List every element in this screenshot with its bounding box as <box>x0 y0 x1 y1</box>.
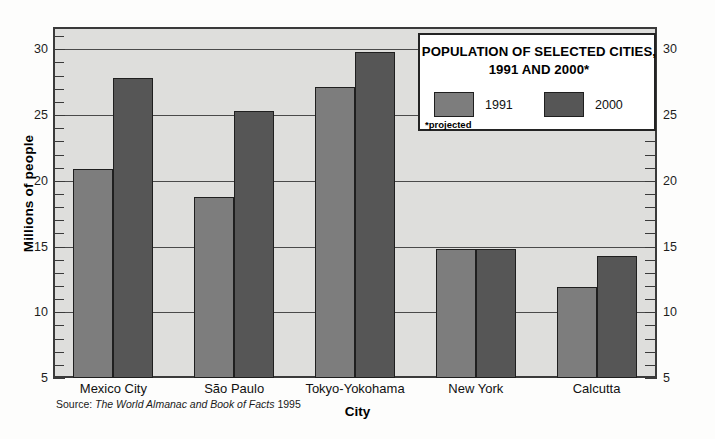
minor-tick-right <box>645 220 656 221</box>
minor-tick-right <box>645 365 656 366</box>
minor-tick-right <box>645 273 656 274</box>
bar-2000-são-paulo <box>234 111 274 378</box>
y-tick-label-right-25: 25 <box>663 109 677 122</box>
source-year: 1995 <box>277 398 300 410</box>
legend-box: POPULATION OF SELECTED CITIES, 1991 AND … <box>418 33 656 131</box>
bar-1991-mexico-city <box>73 169 113 378</box>
minor-tick-left <box>53 339 64 340</box>
bar-2000-tokyo-yokohama <box>355 52 395 378</box>
major-tick-left <box>53 378 65 379</box>
category-label-calcutta: Calcutta <box>517 381 677 396</box>
minor-tick-right <box>645 155 656 156</box>
major-tick-right <box>645 181 657 182</box>
minor-tick-left <box>53 168 64 169</box>
major-tick-left <box>53 181 65 182</box>
minor-tick-left <box>53 141 64 142</box>
y-tick-label-right-20: 20 <box>663 175 677 188</box>
minor-tick-right <box>645 286 656 287</box>
bar-2000-new-york <box>476 249 516 378</box>
y-tick-label-right-30: 30 <box>663 43 677 56</box>
minor-tick-left <box>53 207 64 208</box>
minor-tick-right <box>645 141 656 142</box>
legend-swatch-2000 <box>544 92 584 117</box>
minor-tick-left <box>53 76 64 77</box>
legend-entry-2000: 2000 <box>544 92 623 117</box>
minor-tick-left <box>53 62 64 63</box>
major-tick-right <box>645 247 657 248</box>
minor-tick-left <box>53 36 64 37</box>
minor-tick-right <box>645 194 656 195</box>
minor-tick-left <box>53 155 64 156</box>
minor-tick-left <box>53 260 64 261</box>
y-tick-label-left-20: 20 <box>34 175 48 188</box>
y-tick-label-left-25: 25 <box>34 109 48 122</box>
minor-tick-left <box>53 325 64 326</box>
minor-tick-right <box>645 352 656 353</box>
minor-tick-right <box>645 299 656 300</box>
major-tick-left <box>53 247 65 248</box>
minor-tick-right <box>645 339 656 340</box>
major-tick-right <box>645 312 657 313</box>
legend-title: POPULATION OF SELECTED CITIES, 1991 AND … <box>420 43 658 79</box>
minor-tick-right <box>645 168 656 169</box>
minor-tick-left <box>53 233 64 234</box>
minor-tick-right <box>645 260 656 261</box>
legend-entry-1991: 1991 <box>434 92 513 117</box>
legend-label-2000: 2000 <box>595 98 623 112</box>
minor-tick-left <box>53 102 64 103</box>
bar-1991-tokyo-yokohama <box>315 87 355 378</box>
y-tick-label-right-10: 10 <box>663 306 677 319</box>
bar-2000-mexico-city <box>113 78 153 378</box>
y-tick-label-left-30: 30 <box>34 43 48 56</box>
minor-tick-right <box>645 325 656 326</box>
y-tick-label-left-15: 15 <box>34 241 48 254</box>
minor-tick-right <box>645 207 656 208</box>
legend-label-1991: 1991 <box>485 98 513 112</box>
legend-title-line-2: 1991 AND 2000* <box>420 61 658 79</box>
major-tick-left <box>53 312 65 313</box>
minor-tick-left <box>53 365 64 366</box>
bar-1991-calcutta <box>557 287 597 378</box>
bar-1991-são-paulo <box>194 197 234 378</box>
minor-tick-right <box>645 233 656 234</box>
y-tick-label-left-10: 10 <box>34 306 48 319</box>
legend-footnote: *projected <box>425 119 471 130</box>
minor-tick-left <box>53 299 64 300</box>
minor-tick-left <box>53 220 64 221</box>
bar-2000-calcutta <box>597 256 637 378</box>
bar-1991-new-york <box>436 249 476 378</box>
major-tick-left <box>53 49 65 50</box>
minor-tick-left <box>53 286 64 287</box>
minor-tick-left <box>53 273 64 274</box>
bar-chart-figure: 30252015105 30252015105 Mexico CitySão P… <box>0 0 715 439</box>
source-title: The World Almanac and Book of Facts <box>95 398 274 410</box>
minor-tick-left <box>53 194 64 195</box>
legend-title-line-1: POPULATION OF SELECTED CITIES, <box>420 43 658 61</box>
y-axis-title: Millions of people <box>21 114 36 274</box>
minor-tick-left <box>53 128 64 129</box>
source-note: Source: The World Almanac and Book of Fa… <box>56 398 301 410</box>
minor-tick-left <box>53 352 64 353</box>
source-prefix: Source: <box>56 398 92 410</box>
minor-tick-left <box>53 89 64 90</box>
legend-swatch-1991 <box>434 92 474 117</box>
y-tick-label-right-15: 15 <box>663 241 677 254</box>
major-tick-left <box>53 115 65 116</box>
major-tick-right <box>645 378 657 379</box>
